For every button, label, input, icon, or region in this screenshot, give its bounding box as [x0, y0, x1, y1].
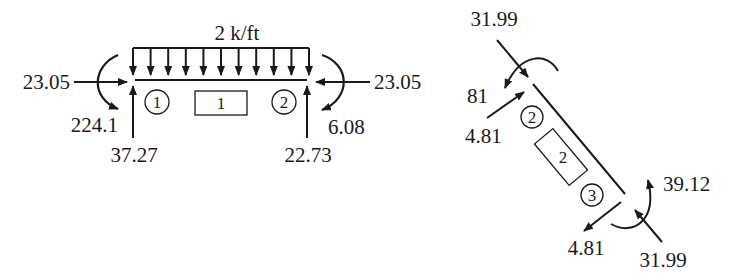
axial-force-top-label: 31.99	[470, 7, 517, 31]
moment-bottom-label: 39.12	[663, 172, 710, 196]
member-2-fbd: 31.99 81 4.81 2 2 3 4.81 31.99 39.12	[465, 7, 710, 272]
axial-force-arrow-bottom	[635, 210, 662, 242]
member-1-fbd: 2 k/ft 23.05 224.1 37.27 1 1 2 23.05 6.0…	[23, 21, 422, 167]
shear-force-arrow-top	[487, 92, 524, 118]
distributed-load-label: 2 k/ft	[215, 21, 260, 45]
frame-fbd-canvas: 2 k/ft 23.05 224.1 37.27 1 1 2 23.05 6.0…	[0, 0, 741, 279]
distributed-load: 2 k/ft	[133, 21, 309, 75]
horizontal-force-left-label: 23.05	[23, 70, 70, 94]
joint-2-top-forces: 31.99 81 4.81 2	[465, 7, 558, 148]
horizontal-force-right-label: 23.05	[374, 70, 421, 94]
joint-1-forces: 23.05 224.1 37.27 1	[23, 55, 169, 167]
joint-1-id: 1	[153, 93, 162, 112]
shear-force-top-label: 4.81	[465, 124, 502, 148]
moment-right-label: 6.08	[328, 115, 365, 139]
axial-force-bottom-label: 31.99	[639, 248, 686, 272]
axial-force-arrow-top	[497, 40, 528, 77]
joint-3-id: 3	[588, 186, 597, 205]
joint-3-bottom-forces: 3 4.81 31.99 39.12	[568, 172, 711, 272]
moment-arc-top	[505, 58, 558, 88]
vertical-force-left-label: 37.27	[110, 143, 157, 167]
joint-2-forces: 2 23.05 6.08 22.73	[272, 55, 421, 167]
moment-top-label: 81	[467, 84, 488, 108]
shear-force-bottom-label: 4.81	[568, 236, 605, 260]
member-1-id: 1	[217, 94, 226, 113]
joint-2-top-id: 2	[528, 108, 537, 127]
vertical-force-right-label: 22.73	[284, 143, 331, 167]
member-2-id: 2	[559, 148, 568, 167]
moment-left-label: 224.1	[71, 113, 118, 137]
joint-2-id: 2	[280, 93, 289, 112]
